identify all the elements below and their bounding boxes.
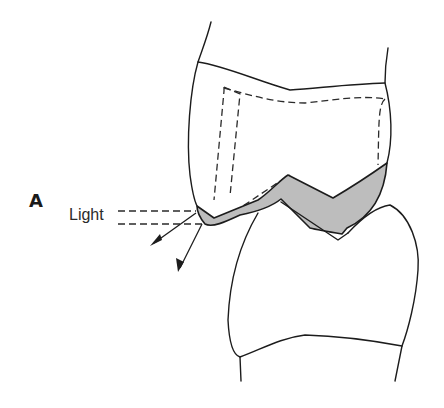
tooth-illustration	[0, 0, 444, 408]
light-rays	[118, 211, 202, 272]
light-label: Light	[69, 206, 104, 224]
tooth-diagram: A Light	[0, 0, 444, 408]
arrowhead-icon	[176, 258, 184, 272]
arrowhead-icon	[150, 234, 162, 246]
panel-label: A	[29, 190, 43, 211]
